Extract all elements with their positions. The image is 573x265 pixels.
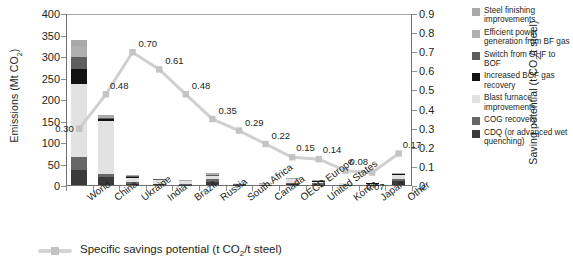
y-tick-right: 0.7 <box>419 47 453 57</box>
y-tick-left: 200 <box>20 95 60 105</box>
y-tick-right: 0.4 <box>419 105 453 115</box>
x-tickmark <box>66 186 67 191</box>
y-tick-right: 0.6 <box>419 66 453 76</box>
y-tick-left: 400 <box>20 9 60 19</box>
line-point-label: 0.70 <box>139 38 158 49</box>
line-legend-marker <box>51 247 59 255</box>
legend-swatch <box>472 130 480 138</box>
legend-label: CDQ (or advanced wet quenching) <box>484 128 573 147</box>
legend-label: Blast furnace improvements <box>484 93 573 112</box>
y-tick-left: 100 <box>20 138 60 148</box>
line-marker <box>156 66 162 72</box>
legend-item: Increased BOF gas recovery <box>472 71 573 90</box>
line-marker <box>183 91 189 97</box>
legend-swatch <box>472 8 480 16</box>
line-marker <box>209 116 215 122</box>
legend-swatch <box>472 52 480 60</box>
y-tick-right: 0.5 <box>419 85 453 95</box>
y-tickmark-right <box>412 52 417 53</box>
y-tickmark-right <box>412 14 417 15</box>
line-legend-swatch <box>38 249 72 253</box>
y-tickmark-right <box>412 33 417 34</box>
y-tickmark-right <box>412 71 417 72</box>
y-tickmark-right <box>412 90 417 91</box>
x-axis-label: Russia <box>218 194 225 203</box>
y-tickmark-right <box>412 129 417 130</box>
chart-container: Emissions (Mt CO2) Saving potential (t C… <box>0 0 573 265</box>
line-point-label: 0.22 <box>272 130 291 141</box>
x-axis-label: South Africa <box>245 194 252 203</box>
legend-label: Increased BOF gas recovery <box>484 71 573 90</box>
y-tickmark-right <box>412 110 417 111</box>
y-tick-left: 250 <box>20 74 60 84</box>
y-tick-left: 0 <box>20 181 60 191</box>
legend-item: COG recovery <box>472 115 573 125</box>
x-axis-label: OECD Europe <box>298 194 305 203</box>
x-axis-label: Japan <box>378 194 385 203</box>
y-tick-right: 0.3 <box>419 124 453 134</box>
legend-item: Switch from OHF to BOF <box>472 50 573 69</box>
x-axis-label: China <box>112 194 119 203</box>
plot-area: 0.300.480.700.610.480.350.290.220.150.14… <box>66 14 412 186</box>
legend-swatch <box>472 73 480 81</box>
line-point-label: 0.17 <box>403 139 422 150</box>
x-axis-label: World <box>85 194 92 203</box>
line-point-label: 0.48 <box>192 80 211 91</box>
line-legend-label: Specific savings potential (t CO2/t stee… <box>80 243 282 258</box>
y-tick-right: 0.8 <box>419 28 453 38</box>
line-marker <box>76 126 82 132</box>
legend-label: COG recovery <box>484 115 536 124</box>
legend-label: Steel finishing improvements <box>484 6 573 25</box>
x-axis-label: Canada <box>272 194 279 203</box>
legend-label: Switch from OHF to BOF <box>484 50 573 69</box>
x-axis-label: Brazil <box>192 194 199 203</box>
line-marker <box>316 156 322 162</box>
line-marker <box>289 154 295 160</box>
line-point-label: 0.48 <box>110 80 129 91</box>
legend-item: Efficient power generation from BF gas <box>472 28 573 47</box>
y-tickmark-right <box>412 167 417 168</box>
legend-swatch <box>472 95 480 103</box>
line-point-label: 0.61 <box>165 55 184 66</box>
bottom-legend: Specific savings potential (t CO2/t stee… <box>38 243 282 258</box>
savings-potential-line <box>79 52 398 172</box>
x-axis-label: Other <box>405 194 412 203</box>
line-point-label: 0.30 <box>55 123 74 134</box>
line-point-label: 0.14 <box>323 144 342 155</box>
legend: Steel finishing improvementsEfficient po… <box>472 6 573 150</box>
legend-item: Blast furnace improvements <box>472 93 573 112</box>
legend-label: Efficient power generation from BF gas <box>484 28 573 47</box>
legend-swatch <box>472 30 480 38</box>
y-tick-left: 150 <box>20 117 60 127</box>
legend-item: CDQ (or advanced wet quenching) <box>472 128 573 147</box>
line-marker <box>103 91 109 97</box>
x-axis-label: Korea <box>351 194 358 203</box>
line-point-label: 0.35 <box>218 105 237 116</box>
x-axis-label: Ukraine <box>139 194 146 203</box>
y-tick-right: 0.9 <box>419 9 453 19</box>
legend-swatch <box>472 117 480 125</box>
line-marker <box>129 49 135 55</box>
y-tick-right: 0.1 <box>419 162 453 172</box>
line-point-label: 0.29 <box>245 117 264 128</box>
y-tick-right: 0.2 <box>419 143 453 153</box>
x-axis-label: India <box>165 194 172 203</box>
line-marker <box>236 127 242 133</box>
line-marker <box>396 150 402 156</box>
y-tick-left: 300 <box>20 52 60 62</box>
legend-item: Steel finishing improvements <box>472 6 573 25</box>
y-tick-left: 350 <box>20 31 60 41</box>
y-tick-left: 50 <box>20 160 60 170</box>
line-point-label: 0.15 <box>296 142 315 153</box>
x-axis-label: United States <box>325 194 332 203</box>
line-marker <box>262 141 268 147</box>
